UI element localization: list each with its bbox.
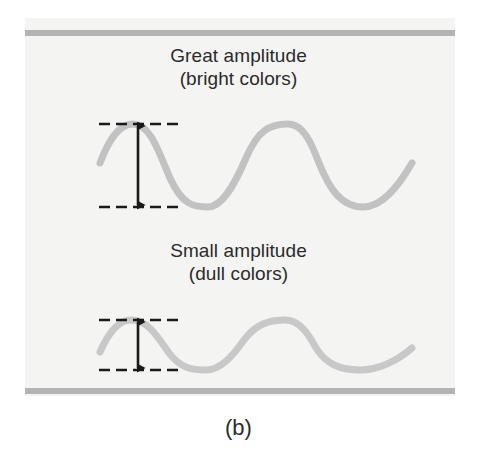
great-amplitude-title: Great amplitude xyxy=(0,44,477,67)
small-amplitude-subtitle: (dull colors) xyxy=(0,262,477,285)
small-amplitude-group xyxy=(99,320,412,370)
figure-caption: (b) xyxy=(0,415,477,441)
wave-amplitude-figure: Great amplitude (bright colors) Small am… xyxy=(0,0,477,466)
great-amplitude-label: Great amplitude (bright colors) xyxy=(0,44,477,90)
great-amplitude-subtitle: (bright colors) xyxy=(0,67,477,90)
small-amplitude-label: Small amplitude (dull colors) xyxy=(0,239,477,285)
small-amplitude-wave xyxy=(100,320,412,370)
great-amplitude-group xyxy=(99,124,412,207)
great-amplitude-wave xyxy=(100,124,412,207)
small-amplitude-title: Small amplitude xyxy=(0,239,477,262)
